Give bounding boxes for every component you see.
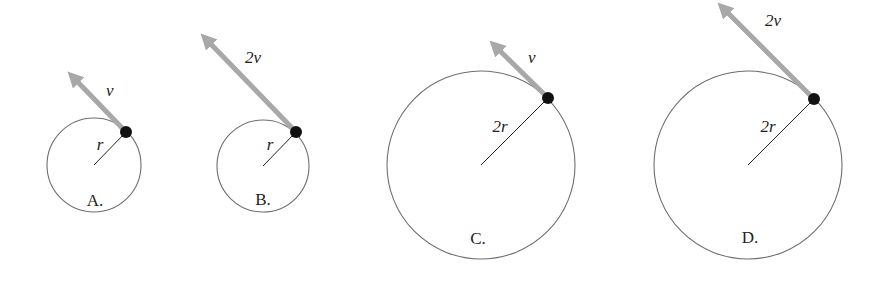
option-label: C. — [470, 229, 486, 248]
circular-motion-diagram: v r A. 2v r B. v 2r C. 2v 2r D. — [0, 0, 884, 282]
radius-line — [748, 99, 814, 165]
speed-label: v — [106, 81, 114, 100]
object-dot — [808, 93, 820, 105]
radius-label: 2r — [492, 117, 508, 136]
option-label: B. — [255, 190, 271, 209]
radius-label: r — [97, 135, 104, 154]
object-dot — [542, 92, 554, 104]
option-label: D. — [742, 228, 759, 247]
panel-c: v 2r C. — [387, 45, 575, 259]
option-label: A. — [87, 191, 104, 210]
object-dot — [120, 126, 132, 138]
object-dot — [290, 126, 302, 138]
radius-label: r — [267, 135, 274, 154]
speed-label: v — [528, 48, 536, 67]
panel-d: 2v 2r D. — [654, 7, 842, 259]
panel-b: 2v r B. — [205, 38, 309, 212]
velocity-arrow-icon — [72, 76, 126, 132]
speed-label: 2v — [245, 48, 262, 67]
velocity-arrow-icon — [494, 45, 548, 98]
panel-a: v r A. — [47, 76, 141, 212]
radius-line — [481, 98, 548, 165]
speed-label: 2v — [765, 11, 782, 30]
radius-label: 2r — [760, 117, 776, 136]
